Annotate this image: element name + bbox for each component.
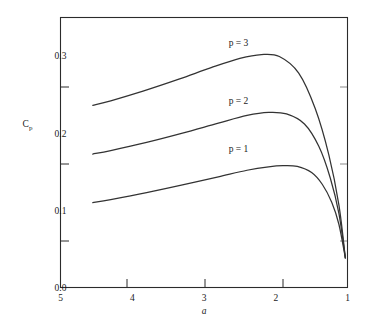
y-tick-label: 0.2 [55,129,67,139]
y-tick-label: 0.1 [55,206,67,216]
chart-container: p = 1p = 2p = 3 12345 0.00.10.20.3 a Cp [0,0,380,327]
x-axis-ticks [127,279,283,287]
curve-p-3 [93,54,346,258]
line-chart: p = 1p = 2p = 3 12345 0.00.10.20.3 a Cp [0,0,380,327]
x-axis-title: a [202,306,207,316]
x-tick-labels-group: 12345 [58,293,350,303]
curve-label: p = 2 [229,96,249,106]
y-axis-ticks [61,87,70,241]
curve-p-1 [93,166,346,258]
x-tick-label: 1 [345,293,350,303]
x-tick-label: 5 [58,293,63,303]
x-axis-title-text: a [202,306,207,316]
curve-label: p = 3 [229,38,249,48]
curve-labels-group: p = 1p = 2p = 3 [229,38,249,154]
y-tick-label: 0.3 [55,51,67,61]
mirrored-figure: p = 1p = 2p = 3 12345 0.00.10.20.3 a Cp [0,0,380,327]
x-tick-label: 4 [130,293,135,303]
curve-p-2 [93,112,346,258]
y-tick-label: 0.0 [55,283,67,293]
y-axis-title-text: Cp [23,119,33,132]
curve-label: p = 1 [229,144,249,154]
y-axis-title: Cp [23,119,33,132]
x-tick-label: 2 [273,293,278,303]
x-tick-label: 3 [202,293,207,303]
